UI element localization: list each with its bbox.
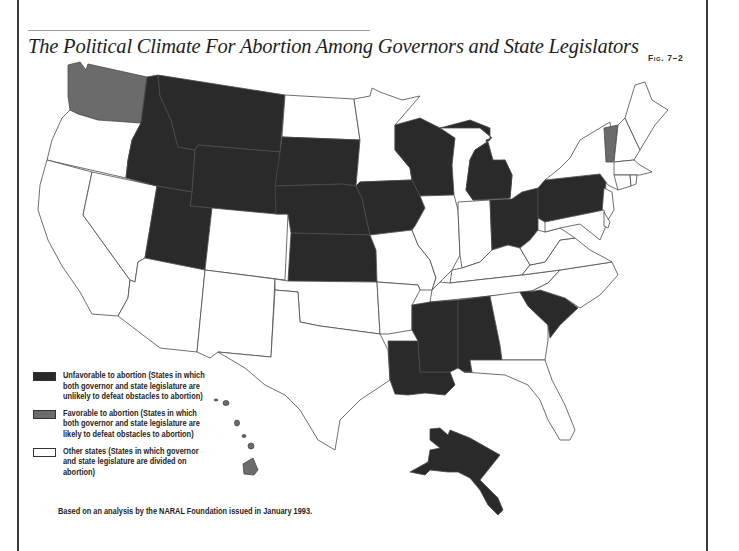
source-note: Based on an analysis by the NARAL Founda… bbox=[58, 506, 312, 516]
legend-swatch-other bbox=[33, 448, 56, 457]
state-hawaii bbox=[214, 399, 258, 475]
state-kansas bbox=[288, 233, 377, 282]
legend-swatch-unfavorable bbox=[33, 372, 56, 381]
legend-item-favorable: Favorable to abortion (States in which b… bbox=[33, 408, 213, 440]
map-legend: Unfavorable to abortion (States in which… bbox=[33, 370, 213, 483]
state-new-mexico bbox=[197, 270, 275, 358]
state-massachusetts bbox=[614, 160, 652, 175]
state-montana bbox=[158, 75, 285, 152]
legend-label-favorable: Favorable to abortion (States in which b… bbox=[63, 408, 209, 440]
state-washington bbox=[68, 62, 147, 123]
state-rhode-island bbox=[630, 175, 637, 186]
state-colorado bbox=[205, 208, 288, 280]
state-alaska bbox=[410, 428, 503, 515]
state-michigan-lower bbox=[466, 142, 512, 200]
state-south-dakota bbox=[275, 137, 360, 186]
legend-item-other: Other states (States in which governor a… bbox=[33, 446, 213, 478]
legend-label-other: Other states (States in which governor a… bbox=[63, 446, 209, 478]
state-wyoming bbox=[190, 145, 280, 214]
state-florida bbox=[464, 360, 575, 440]
legend-item-unfavorable: Unfavorable to abortion (States in which… bbox=[33, 370, 213, 402]
legend-swatch-favorable bbox=[33, 410, 56, 419]
legend-label-unfavorable: Unfavorable to abortion (States in which… bbox=[63, 370, 209, 402]
state-nebraska bbox=[275, 184, 370, 235]
state-north-dakota bbox=[282, 95, 360, 140]
